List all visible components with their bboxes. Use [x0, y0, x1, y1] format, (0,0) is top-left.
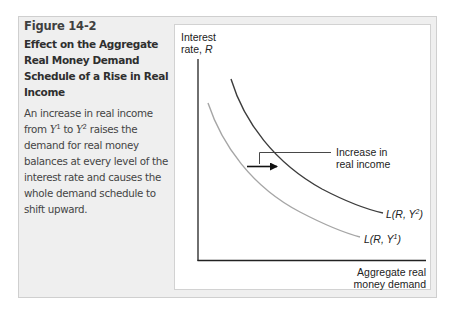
annotation-leader-line [260, 153, 332, 165]
y-axis-label: Interest rate, R [181, 31, 216, 55]
annotation-label: Increase in real income [336, 146, 390, 170]
curve-y2-label: L(R, Y2) [386, 208, 423, 220]
x-axis-label: Aggregate real money demand [330, 266, 426, 290]
curve-y1-label: L(R, Y1) [364, 233, 401, 245]
curve-y1 [208, 103, 360, 237]
